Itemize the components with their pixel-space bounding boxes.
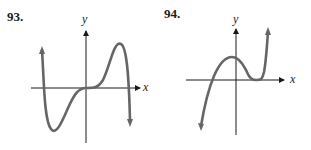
- curve-94: [201, 32, 268, 126]
- arrow-up-icon: [265, 27, 271, 35]
- arrow-down-icon: [127, 119, 133, 127]
- arrow-down-icon: [198, 123, 204, 131]
- graph-94: [186, 27, 284, 135]
- graphs-canvas: [0, 0, 311, 150]
- arrow-up-icon: [39, 46, 45, 54]
- graph-93: [31, 31, 140, 143]
